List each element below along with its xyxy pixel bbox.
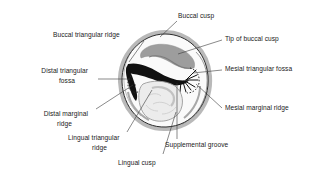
- label-buccal-triangular-ridge: Buccal triangular ridge: [53, 31, 120, 39]
- label-supplemental-groove: Supplemental groove: [165, 141, 229, 149]
- diagram-canvas: Buccal cusp Tip of buccal cusp Mesial tr…: [0, 0, 327, 179]
- tooth-anatomy-figure: Buccal cusp Tip of buccal cusp Mesial tr…: [0, 0, 327, 179]
- label-distal-marginal-ridge-line2: ridge: [57, 120, 72, 128]
- label-tip-of-buccal-cusp: Tip of buccal cusp: [225, 35, 279, 43]
- label-buccal-cusp: Buccal cusp: [178, 12, 214, 20]
- label-distal-triangular-fossa-line2: fossa: [59, 77, 75, 84]
- label-distal-marginal-ridge-line1: Distal marginal: [44, 110, 89, 118]
- label-mesial-marginal-ridge: Mesial marginal ridge: [225, 104, 289, 112]
- tooth-illustration: [120, 32, 210, 129]
- label-distal-triangular-fossa-line1: Distal triangular: [41, 67, 88, 75]
- label-lingual-triangular-ridge-line1: Lingual triangular: [68, 134, 120, 142]
- label-mesial-triangular-fossa: Mesial triangular fossa: [225, 65, 292, 73]
- label-lingual-cusp: Lingual cusp: [118, 159, 156, 167]
- label-lingual-triangular-ridge-line2: ridge: [92, 144, 107, 152]
